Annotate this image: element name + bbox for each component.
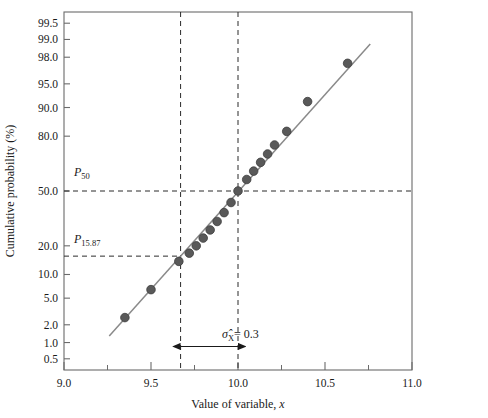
y-tick-label: 20.0 xyxy=(38,240,58,252)
data-point xyxy=(220,208,229,217)
y-tick-label: 0.5 xyxy=(44,353,59,365)
y-tick-label: 10.0 xyxy=(38,268,58,280)
data-point xyxy=(199,234,208,243)
data-point xyxy=(175,257,184,266)
data-point xyxy=(303,97,312,106)
x-axis-title: Value of variable, x xyxy=(191,397,285,411)
data-point xyxy=(147,285,156,294)
data-point xyxy=(256,158,265,167)
y-tick-label: 80.0 xyxy=(38,130,58,142)
y-tick-label: 50.0 xyxy=(38,185,58,197)
data-point xyxy=(242,175,251,184)
data-point xyxy=(234,187,243,196)
data-point xyxy=(206,226,215,235)
data-point xyxy=(213,217,222,226)
data-point xyxy=(270,141,279,150)
y-tick-label: 98.0 xyxy=(38,51,58,63)
y-tick-label: 90.0 xyxy=(38,102,58,114)
data-point xyxy=(263,150,272,159)
x-tick-label: 9.5 xyxy=(144,377,159,389)
data-point xyxy=(192,242,201,251)
y-tick-label: 99.0 xyxy=(38,33,58,45)
p50-sub: 50 xyxy=(81,171,90,181)
data-point xyxy=(227,198,236,207)
data-point xyxy=(282,127,291,136)
data-point xyxy=(185,249,194,258)
sigma-hat-label: σ̂X= 0.3 xyxy=(222,327,259,343)
x-tick-label: 10.0 xyxy=(228,377,248,389)
x-tick-label: 11.0 xyxy=(402,377,422,389)
y-tick-label: 95.0 xyxy=(38,78,58,90)
y-tick-label: 2.0 xyxy=(44,319,59,331)
x-tick-label: 9.0 xyxy=(57,377,72,389)
y-axis-title: Cumulative probability (%) xyxy=(3,125,17,258)
y-tick-label: 1.0 xyxy=(44,337,59,349)
chart-canvas: 99.599.098.095.090.080.050.020.010.05.02… xyxy=(0,0,488,418)
p1587-sub: 15.87 xyxy=(81,238,100,248)
x-tick-label: 10.5 xyxy=(315,377,335,389)
y-tick-label: 99.5 xyxy=(38,17,58,29)
data-point xyxy=(343,59,352,68)
data-point xyxy=(249,167,258,176)
data-point xyxy=(121,313,130,322)
probability-plot-figure: 99.599.098.095.090.080.050.020.010.05.02… xyxy=(0,0,488,418)
sigma-value: = 0.3 xyxy=(234,327,259,341)
chart-background xyxy=(0,0,488,418)
y-tick-label: 5.0 xyxy=(44,292,59,304)
